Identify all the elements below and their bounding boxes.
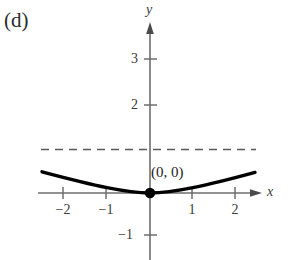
y-axis-arrowhead (146, 22, 154, 34)
y-axis-label: y (146, 3, 152, 17)
y-tick-label-3: 3 (118, 52, 138, 66)
x-tick-label-minus-2: −2 (50, 203, 76, 217)
x-tick-label-minus-1: −1 (93, 203, 119, 217)
y-tick-label-minus-1: −1 (113, 228, 133, 242)
y-tick-label-2: 2 (118, 98, 138, 112)
origin-point-marker (145, 188, 155, 198)
x-tick-label-1: 1 (179, 203, 205, 217)
origin-annotation-label: (0, 0) (151, 165, 184, 180)
plot-area (0, 0, 294, 260)
figure-panel-d: (d) y x 3 2 −1 −2 −1 1 2 (0, 0) (0, 0, 294, 260)
x-tick-label-2: 2 (222, 203, 248, 217)
x-axis-arrowhead (250, 189, 262, 197)
x-axis-label: x (267, 185, 273, 199)
